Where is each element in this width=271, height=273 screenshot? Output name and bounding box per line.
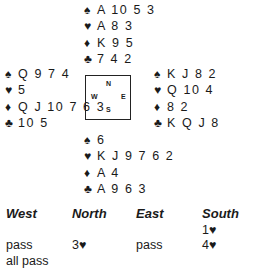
diamond-icon: ♦ [84, 165, 97, 181]
heart-icon: ♥ [84, 148, 97, 164]
compass-north: N [106, 80, 111, 87]
spade-icon: ♠ [154, 66, 167, 82]
heart-icon: ♥ [84, 18, 97, 34]
club-icon: ♣ [84, 181, 97, 197]
east-diamonds: ♦8 2 [154, 99, 220, 115]
bidding-header: West North East South [6, 204, 268, 222]
south-diamonds: ♦A 4 [84, 165, 174, 181]
bidding-table: West North East South 1♥ pass 3♥ pass 4♥… [6, 204, 268, 269]
club-icon: ♣ [5, 115, 18, 131]
east-spades: ♠K J 8 2 [154, 66, 220, 82]
north-spades: ♠A 10 5 3 [84, 2, 156, 18]
diamond-icon: ♦ [84, 35, 97, 51]
east-hand: ♠K J 8 2 ♥Q 10 4 ♦8 2 ♣K Q J 8 [154, 66, 220, 131]
header-south: South [202, 206, 268, 221]
heart-icon: ♥ [5, 82, 18, 98]
club-icon: ♣ [154, 115, 167, 131]
heart-icon: ♥ [154, 82, 167, 98]
south-hearts: ♥K J 9 7 6 2 [84, 148, 174, 164]
bidding-row: pass 3♥ pass 4♥ [6, 238, 268, 254]
east-clubs: ♣K Q J 8 [154, 115, 220, 131]
south-spades: ♠6 [84, 132, 174, 148]
north-diamonds: ♦K 9 5 [84, 35, 156, 51]
bidding-row: all pass [6, 253, 268, 269]
south-clubs: ♣A 9 6 3 [84, 181, 174, 197]
spade-icon: ♠ [84, 132, 97, 148]
spade-icon: ♠ [84, 2, 97, 18]
east-hearts: ♥Q 10 4 [154, 82, 220, 98]
north-hand: ♠A 10 5 3 ♥A 8 3 ♦K 9 5 ♣7 4 2 [84, 2, 156, 67]
north-clubs: ♣7 4 2 [84, 51, 156, 67]
diamond-icon: ♦ [5, 99, 18, 115]
compass-south: S [106, 106, 111, 113]
compass-west: W [91, 93, 98, 100]
north-hearts: ♥A 8 3 [84, 18, 156, 34]
south-hand: ♠6 ♥K J 9 7 6 2 ♦A 4 ♣A 9 6 3 [84, 132, 174, 197]
bidding-row: 1♥ [6, 222, 268, 238]
spade-icon: ♠ [5, 66, 18, 82]
diamond-icon: ♦ [154, 99, 167, 115]
header-west: West [6, 206, 72, 221]
header-east: East [136, 206, 202, 221]
compass-east: E [121, 93, 126, 100]
header-north: North [72, 206, 136, 221]
club-icon: ♣ [84, 51, 97, 67]
compass-box: N W E S [85, 75, 131, 120]
